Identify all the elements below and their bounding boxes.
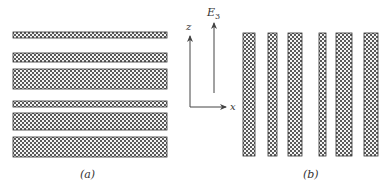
e3-field-label: E3 [206,6,220,21]
panel-b-vertical-layers [243,33,378,156]
z-axis-label: z [185,21,192,32]
vertical-layer-4 [319,33,326,156]
horizontal-layer-4 [13,101,167,107]
e3-base: E [206,6,215,19]
horizontal-layer-3 [13,69,167,89]
e3-subscript: 3 [215,12,220,21]
panel-a-horizontal-layers [13,32,167,157]
vertical-layer-1 [243,33,255,156]
horizontal-layer-5 [13,113,167,130]
horizontal-layer-2 [13,53,167,62]
horizontal-layer-1 [13,32,167,38]
vertical-layer-6 [364,33,378,156]
x-axis-label: x [230,101,236,112]
vertical-layer-2 [268,33,277,156]
panel-b-label: (b) [303,168,319,181]
figure-canvas: (a) z x E3 (b) [0,0,390,187]
panel-a-label: (a) [80,168,95,181]
horizontal-layer-6 [13,137,167,157]
vertical-layer-3 [288,33,302,156]
vertical-layer-5 [336,33,352,156]
axes-diagram: z x E3 [185,6,236,112]
